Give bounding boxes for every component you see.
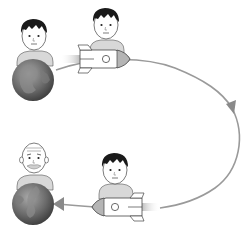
earth-globe-icon bbox=[12, 59, 54, 101]
earth-start-twin bbox=[12, 19, 54, 101]
old-man-head-icon bbox=[20, 143, 49, 173]
arrowhead-icon bbox=[53, 197, 64, 211]
boy-head-icon bbox=[93, 8, 119, 39]
boy-head-icon bbox=[102, 153, 128, 184]
twin-paradox-illustration: Twin paradox illustration: one twin stay… bbox=[0, 0, 249, 228]
earth-end-twin bbox=[12, 143, 54, 225]
trajectory-path bbox=[53, 60, 239, 211]
rocket-return-twin bbox=[92, 153, 160, 221]
rocket-outbound-twin bbox=[60, 8, 130, 73]
earth-globe-icon bbox=[12, 183, 54, 225]
boy-head-icon bbox=[21, 19, 47, 50]
